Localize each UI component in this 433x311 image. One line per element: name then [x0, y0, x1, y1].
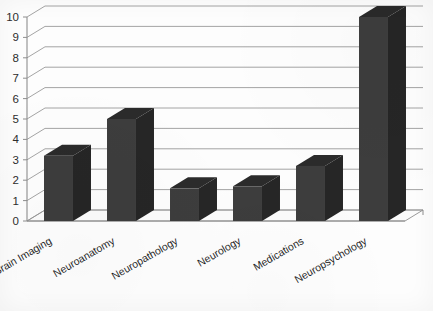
bar-neuropsychology [359, 6, 406, 221]
bar-neuroanatomy [107, 108, 154, 221]
bar-side-face [136, 108, 154, 221]
bar-front-face [296, 166, 325, 221]
y-tick-label-4: 4 [13, 133, 20, 145]
bar-front-face [107, 119, 136, 221]
bar-side-face [325, 155, 343, 221]
bar-neurology [233, 175, 280, 221]
y-tick-label-0: 0 [13, 215, 19, 227]
category-label-neuroanatomy: Neuroanatomy [51, 234, 117, 279]
bar-front-face [359, 17, 388, 221]
y-tick-label-2: 2 [13, 174, 19, 186]
category-label-brain-imaging: Brain Imaging [0, 234, 54, 277]
bar-front-face [44, 156, 73, 221]
category-label-medications: Medications [251, 234, 306, 272]
bar-side-face [388, 6, 406, 221]
category-label-neuropathology: Neuropathology [109, 234, 180, 282]
y-tick-label-3: 3 [13, 154, 19, 166]
bar-brain-imaging [44, 145, 91, 221]
y-tick-label-8: 8 [13, 52, 19, 64]
bar-medications [296, 155, 343, 221]
y-axis-ticks [23, 17, 27, 221]
x-axis-category-labels: Brain ImagingNeuroanatomyNeuropathologyN… [0, 234, 369, 285]
y-tick-label-1: 1 [13, 195, 19, 207]
category-label-neurology: Neurology [195, 234, 243, 269]
bar-series [44, 6, 406, 221]
y-tick-label-9: 9 [13, 31, 19, 43]
y-tick-label-7: 7 [13, 72, 19, 84]
bar-chart-figure: 012345678910 Brain ImagingNeuroanatomyNe… [0, 0, 433, 311]
category-label-neuropsychology: Neuropsychology [292, 234, 369, 285]
y-tick-label-10: 10 [6, 11, 19, 23]
bar-side-face [73, 145, 91, 221]
bar-front-face [170, 188, 199, 221]
y-axis-tick-labels: 012345678910 [6, 11, 19, 227]
bar-front-face [233, 186, 262, 221]
y-tick-label-6: 6 [13, 93, 19, 105]
chart-canvas: 012345678910 Brain ImagingNeuroanatomyNe… [0, 0, 433, 311]
y-tick-label-5: 5 [13, 113, 19, 125]
